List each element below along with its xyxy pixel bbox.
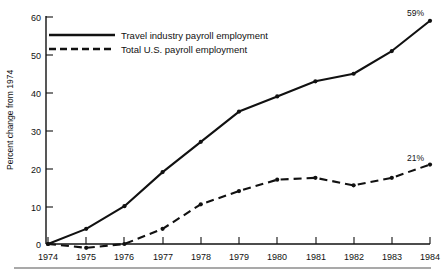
data-point: [390, 49, 394, 53]
annotation-travel-endpoint: 59%: [407, 8, 424, 18]
y-tick-label-0: 0: [36, 240, 41, 250]
x-tick-label-1975: 1975: [76, 252, 96, 262]
data-point: [352, 72, 356, 76]
data-point: [313, 79, 317, 83]
x-tick-label-1976: 1976: [114, 252, 134, 262]
data-point: [275, 178, 279, 182]
x-axis-tick-labels: 1974 1975 1976 1977 1978 1979 1980 1981 …: [38, 252, 440, 262]
annotation-total-endpoint: 21%: [407, 153, 424, 163]
legend-label-travel: Travel industry payroll employment: [121, 30, 268, 41]
data-point: [46, 242, 50, 246]
data-point: [428, 19, 432, 23]
data-point: [122, 204, 126, 208]
data-point: [161, 170, 165, 174]
x-axis-ticks: [48, 237, 430, 244]
y-tick-label-20: 20: [31, 165, 41, 175]
data-point: [390, 176, 394, 180]
y-axis-ticks: [46, 17, 53, 244]
y-tick-label-10: 10: [31, 203, 41, 213]
y-tick-label-50: 50: [31, 51, 41, 61]
y-tick-label-60: 60: [31, 13, 41, 23]
x-tick-label-1978: 1978: [191, 252, 211, 262]
legend-label-total: Total U.S. payroll employment: [121, 44, 248, 55]
x-tick-label-1981: 1981: [306, 252, 326, 262]
y-tick-label-40: 40: [31, 89, 41, 99]
x-tick-label-1984: 1984: [420, 252, 440, 262]
data-point: [161, 227, 165, 231]
data-point: [237, 109, 241, 113]
x-tick-label-1980: 1980: [267, 252, 287, 262]
data-point: [84, 227, 88, 231]
y-axis-tick-labels: 60 50 40 30 20 10 0: [31, 13, 41, 250]
series-total-us: [46, 162, 432, 249]
x-tick-label-1977: 1977: [153, 252, 173, 262]
chart-legend: Travel industry payroll employment Total…: [49, 30, 268, 55]
chart-figure: 60 50 40 30 20 10 0 Percent change from …: [0, 0, 445, 274]
x-tick-label-1982: 1982: [344, 252, 364, 262]
data-point: [122, 242, 126, 246]
data-point: [428, 162, 432, 166]
chart-canvas: 60 50 40 30 20 10 0 Percent change from …: [0, 0, 445, 274]
x-tick-label-1974: 1974: [38, 252, 58, 262]
x-tick-label-1979: 1979: [229, 252, 249, 262]
data-point: [313, 176, 317, 180]
y-axis-title: Percent change from 1974: [5, 70, 15, 170]
series-line: [48, 165, 430, 248]
data-point: [237, 189, 241, 193]
data-point: [275, 94, 279, 98]
y-tick-label-30: 30: [31, 127, 41, 137]
data-point: [352, 183, 356, 187]
data-point: [199, 140, 203, 144]
data-point: [199, 202, 203, 206]
x-tick-label-1983: 1983: [382, 252, 402, 262]
data-point: [84, 246, 88, 250]
